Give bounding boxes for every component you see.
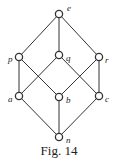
edges [19, 14, 99, 137]
hasse-diagram: epqrabcn [0, 0, 118, 162]
edge-e-p [19, 14, 59, 57]
edge-r-b [59, 57, 99, 97]
node-n [55, 133, 62, 140]
figure-caption: Fig. 14 [0, 143, 118, 159]
edge-a-n [19, 96, 59, 137]
node-label-r: r [105, 55, 109, 65]
node-label-q: q [66, 53, 71, 63]
edge-q-c [59, 55, 99, 96]
node-q [55, 51, 62, 58]
node-label-e: e [67, 3, 71, 13]
node-r [95, 53, 102, 60]
node-label-p: p [7, 54, 13, 64]
edge-e-r [59, 14, 99, 57]
node-b [55, 93, 62, 100]
edge-q-a [19, 55, 59, 96]
edge-p-b [19, 57, 59, 97]
node-e [55, 10, 62, 17]
edge-c-n [59, 96, 99, 137]
node-p [15, 53, 22, 60]
node-a [15, 92, 22, 99]
node-c [95, 92, 102, 99]
node-label-b: b [66, 95, 71, 105]
node-label-a: a [8, 94, 13, 104]
nodes: epqrabcn [7, 3, 109, 145]
node-label-c: c [105, 94, 109, 104]
